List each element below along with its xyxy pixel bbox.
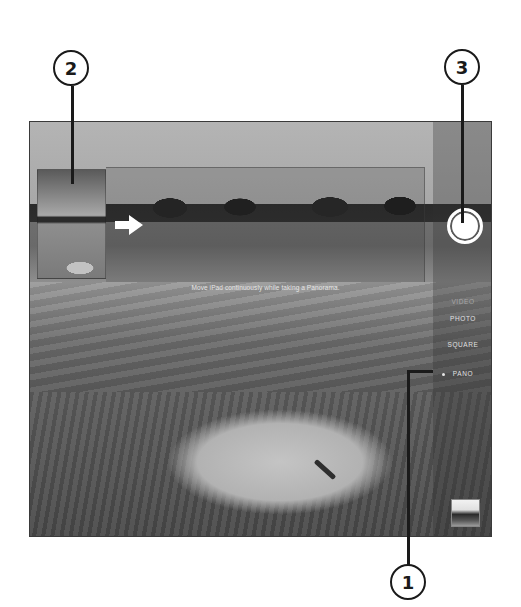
camera-screen: Move iPad continuously while taking a Pa… bbox=[29, 121, 492, 537]
arrow-right-icon bbox=[115, 215, 143, 235]
mode-pano[interactable]: PANO bbox=[433, 370, 492, 377]
pano-preview bbox=[37, 169, 106, 279]
mode-square[interactable]: SQUARE bbox=[433, 341, 492, 348]
mode-photo[interactable]: PHOTO bbox=[433, 315, 492, 322]
callout-3: 3 bbox=[444, 49, 480, 85]
field-mid bbox=[30, 282, 491, 392]
callout-2: 2 bbox=[53, 50, 89, 86]
photo-thumbnail[interactable] bbox=[451, 499, 480, 527]
callout-1-line-horizontal bbox=[407, 370, 433, 373]
mode-video[interactable]: VIDEO bbox=[433, 298, 492, 305]
pano-hint-text: Move iPad continuously while taking a Pa… bbox=[106, 284, 425, 291]
pano-guide-band bbox=[106, 167, 425, 282]
callout-1: 1 bbox=[390, 564, 426, 600]
callout-1-line-vertical bbox=[407, 370, 410, 566]
callout-2-line bbox=[71, 86, 74, 184]
field-near bbox=[30, 392, 491, 537]
shutter-button[interactable] bbox=[447, 208, 483, 244]
callout-3-line bbox=[461, 85, 464, 223]
